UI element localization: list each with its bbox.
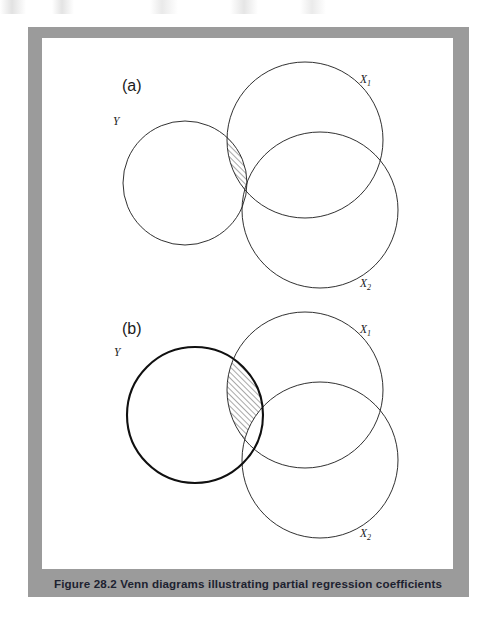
panel-a-circle-x2 — [242, 132, 398, 288]
panel-a-circle-x1 — [227, 62, 383, 218]
figure-caption-bar: Figure 28.2 Venn diagrams illustrating p… — [28, 569, 469, 597]
venn-diagram: (a) Y X1 X2 — [42, 38, 453, 569]
panel-b-label-y: Y — [114, 346, 122, 358]
panel-a-label-y: Y — [113, 115, 121, 127]
panel-b-label-x2: X2 — [359, 527, 371, 542]
panel-b: (b) Y X1 X2 — [42, 38, 453, 569]
figure-caption: Figure 28.2 Venn diagrams illustrating p… — [28, 577, 442, 590]
figure-canvas: (a) Y X1 X2 — [42, 38, 453, 569]
panel-b-circle-x2 — [242, 382, 398, 538]
figure-frame: (a) Y X1 X2 — [28, 27, 469, 597]
scan-artifact — [0, 0, 500, 14]
panel-b-label: (b) — [122, 320, 142, 337]
panel-a-label-x2: X2 — [359, 277, 371, 292]
panel-a-label: (a) — [122, 77, 142, 94]
